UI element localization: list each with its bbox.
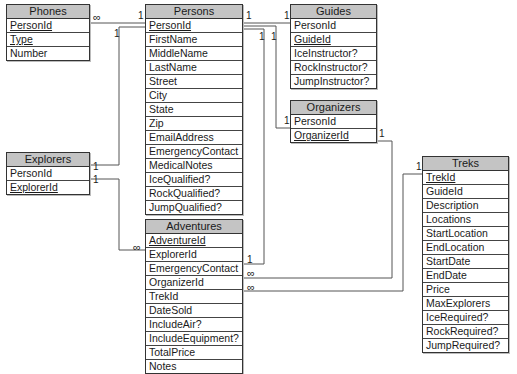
field-trekid: TrekId	[423, 171, 508, 185]
field-iceinstructor: IceInstructor?	[291, 47, 376, 61]
card-persons-organizers-one: 1	[271, 32, 277, 42]
field-includeequipment: IncludeEquipment?	[146, 332, 242, 346]
field-emergencycontact: EmergencyContact	[146, 145, 242, 159]
field-description: Description	[423, 199, 508, 213]
field-state: State	[146, 103, 242, 117]
entity-title: Persons	[146, 5, 242, 19]
card-organizers-person-one: 1	[284, 116, 290, 126]
field-number: Number	[7, 47, 89, 60]
field-personid: PersonId	[7, 167, 89, 181]
entity-title: Adventures	[146, 220, 242, 234]
field-endlocation: EndLocation	[423, 241, 508, 255]
field-jumpinstructor: JumpInstructor?	[291, 75, 376, 88]
field-personid: PersonId	[291, 19, 376, 33]
entity-adventures[interactable]: Adventures AdventureId ExplorerId Emerge…	[145, 219, 243, 374]
card-adventures-emergency-one: 1	[247, 255, 253, 265]
field-startlocation: StartLocation	[423, 227, 508, 241]
field-adventureid: AdventureId	[146, 234, 242, 248]
card-adventures-trek-many: ∞	[247, 282, 255, 292]
field-rockqualified: RockQualified?	[146, 187, 242, 201]
field-icequalified: IceQualified?	[146, 173, 242, 187]
entity-explorers[interactable]: Explorers PersonId ExplorerId	[6, 152, 90, 195]
field-firstname: FirstName	[146, 33, 242, 47]
field-guideid: GuideId	[291, 33, 376, 47]
entity-persons[interactable]: Persons PersonId FirstName MiddleName La…	[145, 4, 243, 215]
field-street: Street	[146, 75, 242, 89]
entity-title: Explorers	[7, 153, 89, 167]
field-guideid: GuideId	[423, 185, 508, 199]
card-phones-many: ∞	[93, 12, 101, 22]
field-middlename: MiddleName	[146, 47, 242, 61]
field-totalprice: TotalPrice	[146, 346, 242, 360]
field-price: Price	[423, 283, 508, 297]
rel-persons-organizers	[243, 26, 290, 128]
field-icerequired: IceRequired?	[423, 311, 508, 325]
rel-treks-adventures	[243, 174, 422, 291]
entity-organizers[interactable]: Organizers PersonId OrganizerId	[290, 100, 377, 143]
entity-title: Guides	[291, 5, 376, 19]
card-explorers-person-one: 1	[93, 162, 99, 172]
field-startdate: StartDate	[423, 255, 508, 269]
field-organizerid: OrganizerId	[146, 276, 242, 290]
field-personid: PersonId	[291, 115, 376, 129]
field-type: Type	[7, 33, 89, 47]
field-medicalnotes: MedicalNotes	[146, 159, 242, 173]
field-explorerid: ExplorerId	[146, 248, 242, 262]
entity-title: Phones	[7, 5, 89, 19]
field-rockrequired: RockRequired?	[423, 325, 508, 339]
field-organizerid: OrganizerId	[291, 129, 376, 142]
field-explorerid: ExplorerId	[7, 181, 89, 194]
rel-explorers-adventures	[90, 179, 145, 250]
card-adventures-organizer-many: ∞	[247, 268, 255, 278]
card-treks-one: 1	[416, 162, 422, 172]
field-datesold: DateSold	[146, 304, 242, 318]
card-adventures-explorer-many: ∞	[133, 242, 141, 252]
entity-guides[interactable]: Guides PersonId GuideId IceInstructor? R…	[290, 4, 377, 89]
field-notes: Notes	[146, 360, 242, 373]
field-city: City	[146, 89, 242, 103]
card-persons-phones-one: 1	[138, 11, 144, 21]
field-zip: Zip	[146, 117, 242, 131]
entity-title: Organizers	[291, 101, 376, 115]
field-rockinstructor: RockInstructor?	[291, 61, 376, 75]
rel-persons-explorers	[90, 27, 145, 165]
field-personid: PersonId	[7, 19, 89, 33]
card-persons-guides-one: 1	[246, 11, 252, 21]
entity-title: Treks	[423, 157, 508, 171]
card-organizers-organizer-one: 1	[379, 129, 385, 139]
card-explorers-explorer-one: 1	[93, 175, 99, 185]
field-maxexplorers: MaxExplorers	[423, 297, 508, 311]
field-trekid: TrekId	[146, 290, 242, 304]
card-persons-adventures-one: 1	[259, 32, 265, 42]
field-includeair: IncludeAir?	[146, 318, 242, 332]
card-persons-explorers-one: 1	[114, 29, 120, 39]
entity-treks[interactable]: Treks TrekId GuideId Description Locatio…	[422, 156, 509, 353]
rel-persons-adventures-emergency	[243, 29, 264, 264]
field-locations: Locations	[423, 213, 508, 227]
field-personid: PersonId	[146, 19, 242, 33]
rel-organizers-adventures	[243, 141, 392, 278]
field-enddate: EndDate	[423, 269, 508, 283]
entity-phones[interactable]: Phones PersonId Type Number	[6, 4, 90, 61]
field-emailaddress: EmailAddress	[146, 131, 242, 145]
field-jumprequired: JumpRequired?	[423, 339, 508, 352]
field-emergencycontact: EmergencyContact	[146, 262, 242, 276]
field-lastname: LastName	[146, 61, 242, 75]
card-guides-one: 1	[284, 11, 290, 21]
field-jumpqualified: JumpQualified?	[146, 201, 242, 214]
